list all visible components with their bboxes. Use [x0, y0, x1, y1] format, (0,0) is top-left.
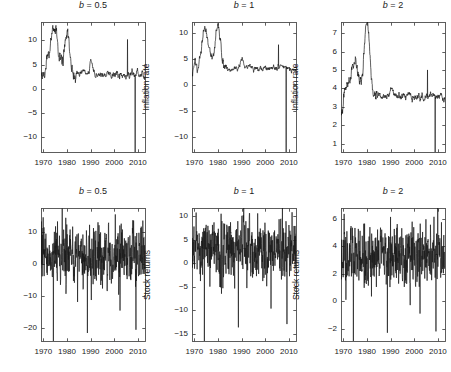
y-axis-label: Inflation rate	[290, 22, 300, 152]
y-tick-label: 5	[1, 61, 37, 69]
plot-area	[0, 186, 151, 367]
plot-panel: b = 2−2024619701980199020002010Stock ret…	[300, 186, 451, 367]
y-tick-label: 10	[1, 36, 37, 44]
y-tick-label: 6	[301, 48, 337, 56]
y-tick-label: −10	[152, 133, 188, 141]
y-tick-label: −2	[301, 325, 337, 333]
plot-area	[151, 0, 302, 178]
y-tick-label: −10	[1, 292, 37, 300]
y-tick-label: 10	[152, 29, 188, 37]
y-tick-label: −5	[1, 109, 37, 117]
y-tick-label: 5	[152, 55, 188, 63]
x-tick-label: 2010	[424, 348, 451, 356]
y-tick-label: −10	[152, 306, 188, 314]
y-tick-label: −15	[152, 330, 188, 338]
y-tick-label: 7	[301, 29, 337, 37]
y-tick-label: 0	[152, 81, 188, 89]
y-tick-label: 5	[152, 236, 188, 244]
y-tick-label: 10	[1, 228, 37, 236]
y-tick-label: 0	[1, 85, 37, 93]
x-tick-label: 2010	[275, 348, 303, 356]
y-tick-label: 3	[301, 103, 337, 111]
y-tick-label: 2	[301, 121, 337, 129]
figure-canvas: b = 0.5−10−5051019701980199020002010Infl…	[0, 0, 451, 372]
x-tick-label: 2010	[124, 159, 152, 167]
axes-box	[42, 23, 146, 153]
y-tick-label: 4	[301, 84, 337, 92]
plot-panel: b = 1−15−10−5051019701980199020002010Sto…	[151, 186, 302, 367]
y-tick-label: −20	[1, 324, 37, 332]
y-tick-label: −5	[152, 283, 188, 291]
plot-panel: b = 2123456719701980199020002010Inflatio…	[300, 0, 451, 178]
y-tick-label: 6	[301, 215, 337, 223]
y-axis-label: Stock returns	[141, 208, 151, 341]
y-tick-label: 10	[152, 212, 188, 220]
y-tick-label: −10	[1, 133, 37, 141]
y-tick-label: 0	[301, 297, 337, 305]
y-axis-label: Inflation rate	[141, 22, 151, 152]
y-tick-label: 5	[301, 66, 337, 74]
y-tick-label: 1	[301, 140, 337, 148]
y-tick-label: 0	[1, 260, 37, 268]
y-tick-label: 2	[301, 270, 337, 278]
y-tick-label: −5	[152, 107, 188, 115]
y-tick-label: 4	[301, 242, 337, 250]
axes-box	[342, 23, 446, 153]
plot-panel: b = 0.5−20−1001019701980199020002010Stoc…	[0, 186, 151, 367]
y-tick-label: 0	[152, 259, 188, 267]
x-tick-label: 2010	[275, 159, 303, 167]
x-tick-label: 2010	[124, 348, 152, 356]
x-tick-label: 2010	[424, 159, 451, 167]
plot-panel: b = 0.5−10−5051019701980199020002010Infl…	[0, 0, 151, 178]
y-axis-label: Stock returns	[290, 208, 300, 341]
plot-panel: b = 1−10−5051019701980199020002010Inflat…	[151, 0, 302, 178]
